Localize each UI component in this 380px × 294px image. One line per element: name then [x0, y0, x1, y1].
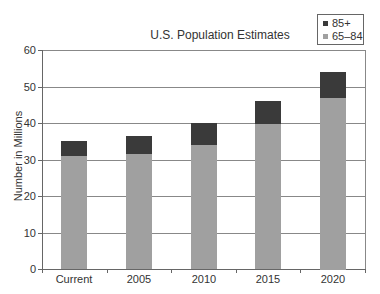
bar-2010: [191, 123, 217, 269]
bar-segment-65-84: [255, 124, 281, 269]
bar-current: [61, 141, 87, 269]
y-tick-label: 20: [10, 190, 36, 202]
legend-item-85-plus: 85+: [323, 17, 351, 29]
y-tick-label: 50: [10, 81, 36, 93]
x-tick: [300, 269, 301, 273]
x-axis: [42, 269, 365, 270]
bar-segment-85-plus: [126, 136, 152, 154]
chart-title: U.S. Population Estimates: [120, 28, 320, 42]
y-tick-label: 60: [10, 44, 36, 56]
bar-segment-85-plus: [191, 123, 217, 145]
bar-segment-65-84: [191, 145, 217, 269]
legend: 85+ 65–84: [317, 14, 364, 45]
x-tick: [365, 269, 366, 273]
y-tick-label: 0: [10, 263, 36, 275]
x-tick: [107, 269, 108, 273]
legend-label: 65–84: [332, 30, 363, 42]
x-tick-label: 2015: [238, 273, 298, 285]
legend-swatch-65-84: [323, 34, 328, 39]
bar-segment-65-84: [61, 156, 87, 269]
bar-2005: [126, 136, 152, 269]
x-tick: [42, 269, 43, 273]
y-axis: [42, 50, 43, 270]
bar-segment-85-plus: [61, 141, 87, 156]
bar-segment-65-84: [126, 154, 152, 269]
bar-2015: [255, 101, 281, 269]
legend-item-65-84: 65–84: [323, 30, 363, 42]
x-tick: [171, 269, 172, 273]
bar-2020: [320, 72, 346, 269]
legend-swatch-85-plus: [323, 21, 328, 26]
gridline: [42, 87, 365, 88]
y-tick-label: 30: [10, 154, 36, 166]
bar-segment-65-84: [320, 98, 346, 270]
bar-segment-85-plus: [320, 72, 346, 98]
x-tick-label: 2010: [174, 273, 234, 285]
y-tick-label: 10: [10, 227, 36, 239]
y-tick-label: 40: [10, 117, 36, 129]
x-tick-label: 2005: [109, 273, 169, 285]
legend-label: 85+: [332, 17, 351, 29]
plot-right-border: [365, 50, 366, 270]
x-tick-label: 2020: [303, 273, 363, 285]
bar-segment-85-plus: [255, 101, 281, 124]
x-tick-label: Current: [44, 273, 104, 285]
gridline: [42, 50, 365, 51]
x-tick: [236, 269, 237, 273]
